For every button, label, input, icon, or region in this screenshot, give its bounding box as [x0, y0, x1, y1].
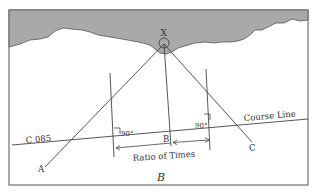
- landmark-label: X: [161, 28, 168, 38]
- point-a-label: A: [37, 164, 45, 174]
- angle-left-label: 90°: [121, 130, 133, 138]
- figure-label: B: [156, 171, 165, 184]
- angle-right-label: 90°: [195, 122, 207, 130]
- bearing-diagram: X C 085 Course Line A B C 90° 90° Ratio …: [0, 0, 316, 194]
- point-c-label: C: [249, 143, 256, 153]
- point-b-label: B: [163, 134, 169, 144]
